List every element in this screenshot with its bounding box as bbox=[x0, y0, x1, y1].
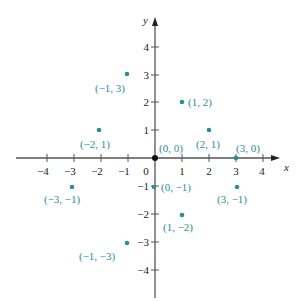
point-label: (0, 0) bbox=[159, 142, 183, 155]
y-tick-label: −2 bbox=[137, 208, 149, 220]
x-tick-labels: −4 −3 −2 −1 0 1 2 3 4 bbox=[37, 165, 265, 177]
x-axis-arrow-icon bbox=[271, 155, 280, 161]
coordinate-plane: x y −4 −3 −2 −1 0 1 2 3 4 1 2 3 4 bbox=[0, 0, 307, 301]
point-label: (3, −1) bbox=[217, 193, 247, 206]
point-3-m1 bbox=[235, 185, 240, 190]
x-tick-label: −2 bbox=[91, 165, 103, 177]
point-0-m1 bbox=[152, 185, 157, 190]
y-tick-label: −4 bbox=[137, 264, 149, 276]
point-m1-3 bbox=[125, 72, 130, 77]
point-label: (0, −1) bbox=[161, 181, 191, 194]
point-m2-1 bbox=[97, 128, 102, 133]
x-tick-label: 0 bbox=[143, 165, 149, 177]
x-tick-label: −3 bbox=[64, 165, 76, 177]
x-tick-label: 3 bbox=[233, 165, 239, 177]
point-labels: (0, 0) (−1, 3) (1, 2) (−2, 1) (2, 1) (3,… bbox=[44, 82, 260, 263]
y-tick-label: 1 bbox=[144, 124, 150, 136]
y-tick-label: 4 bbox=[144, 41, 150, 53]
x-tick-label: 1 bbox=[179, 165, 185, 177]
point-label: (1, 2) bbox=[188, 96, 212, 109]
point-3-0 bbox=[234, 156, 239, 161]
point-label: (−1, −3) bbox=[79, 250, 116, 263]
point-m3-m1 bbox=[70, 185, 75, 190]
x-tick-label: −4 bbox=[37, 165, 49, 177]
point-m1-m3 bbox=[125, 241, 130, 246]
y-axis-arrow-icon bbox=[152, 17, 158, 26]
y-tick-label: −3 bbox=[137, 236, 149, 248]
y-axis-label: y bbox=[142, 14, 148, 26]
y-tick-label: 3 bbox=[144, 69, 150, 81]
point-label: (3, 0) bbox=[236, 142, 260, 155]
y-tick-label: 2 bbox=[144, 96, 150, 108]
x-tick-label: −1 bbox=[118, 165, 130, 177]
point-1-2 bbox=[180, 100, 185, 105]
point-label: (1, −2) bbox=[163, 221, 193, 234]
point-label: (−3, −1) bbox=[44, 193, 81, 206]
point-2-1 bbox=[207, 128, 212, 133]
point-origin bbox=[152, 155, 158, 161]
x-tick-label: 2 bbox=[206, 165, 212, 177]
point-label: (−2, 1) bbox=[80, 138, 110, 151]
x-axis-label: x bbox=[283, 161, 289, 173]
y-tick-label: −1 bbox=[137, 180, 149, 192]
point-1-m2 bbox=[180, 213, 185, 218]
point-label: (−1, 3) bbox=[95, 82, 125, 95]
point-label: (2, 1) bbox=[196, 138, 220, 151]
x-tick-label: 4 bbox=[259, 165, 265, 177]
